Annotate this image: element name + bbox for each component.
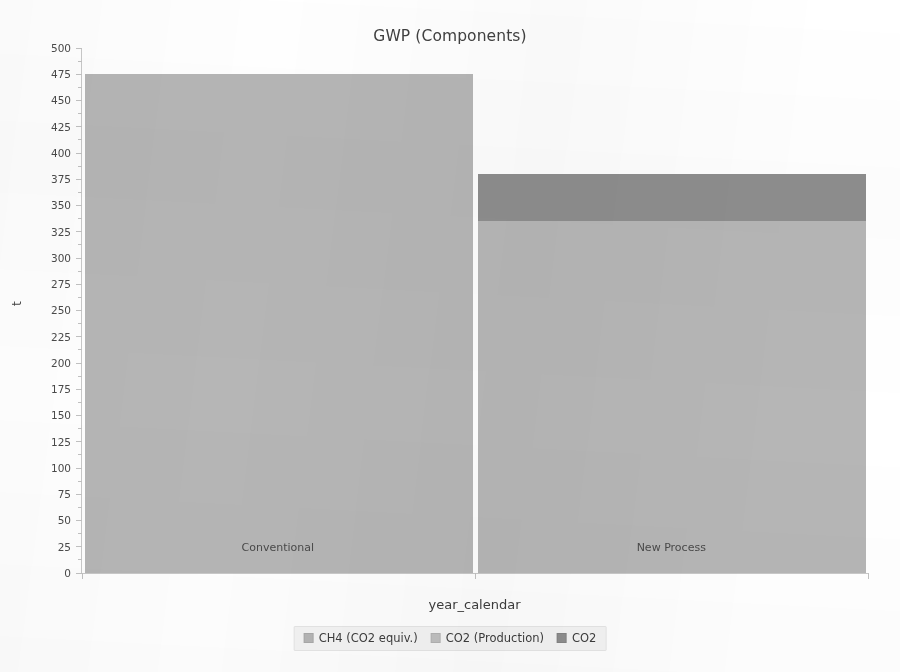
y-axis-tick-label: 150	[51, 410, 71, 421]
y-axis-tick-mark	[76, 153, 82, 154]
y-axis-tick-label: 275	[51, 279, 71, 290]
x-axis-origin-tick-mark	[82, 573, 83, 579]
y-axis-tick-mark	[76, 415, 82, 416]
y-axis-minor-tick	[73, 291, 82, 303]
y-axis-tick: 200	[51, 357, 82, 369]
chart-legend: CH4 (CO2 equiv.)CO2 (Production)CO2	[294, 626, 607, 651]
y-axis-tick: 0	[64, 567, 82, 579]
y-axis-tick-mark	[76, 100, 82, 101]
y-axis-tick-mark	[76, 546, 82, 547]
y-axis-minor-tick	[73, 213, 82, 225]
x-axis-tick-mark	[868, 573, 869, 579]
y-axis-tick: 375	[51, 173, 82, 185]
y-axis-tick: 475	[51, 68, 82, 80]
y-axis-minor-tick-mark	[78, 481, 82, 482]
y-axis-tick-mark	[76, 310, 82, 311]
y-axis-minor-tick-mark	[78, 349, 82, 350]
y-axis-minor-tick	[73, 501, 82, 513]
y-axis-minor-tick-mark	[78, 507, 82, 508]
y-axis-tick: 300	[51, 252, 82, 264]
y-axis-minor-tick-mark	[78, 218, 82, 219]
x-axis-category-label: New Process	[637, 541, 706, 554]
y-axis-tick-label: 75	[58, 489, 71, 500]
y-axis-tick-mark	[76, 284, 82, 285]
y-axis-minor-tick-mark	[78, 61, 82, 62]
y-axis-tick: 25	[58, 541, 82, 553]
legend-label: CO2	[572, 631, 596, 645]
bar-stack[interactable]	[85, 74, 473, 573]
y-axis-tick-label: 475	[51, 69, 71, 80]
y-axis-tick: 50	[58, 515, 82, 527]
y-axis-tick-label: 450	[51, 95, 71, 106]
plot-area: 0255075100125150175200225250275300325350…	[81, 48, 869, 574]
y-axis-minor-tick-mark	[78, 402, 82, 403]
y-axis-tick: 75	[58, 488, 82, 500]
bar-segment[interactable]	[478, 174, 866, 221]
y-axis-tick-label: 425	[51, 122, 71, 133]
y-axis-tick-label: 25	[58, 542, 71, 553]
y-axis-minor-tick-mark	[78, 533, 82, 534]
y-axis-tick: 225	[51, 331, 82, 343]
y-axis-minor-tick	[73, 396, 82, 408]
legend-color-swatch	[431, 633, 441, 643]
y-axis-minor-tick	[73, 108, 82, 120]
y-axis-minor-tick	[73, 55, 82, 67]
y-axis-tick-mark	[76, 126, 82, 127]
y-axis-tick: 100	[51, 462, 82, 474]
y-axis-tick-label: 100	[51, 463, 71, 474]
legend-label: CO2 (Production)	[446, 631, 544, 645]
y-axis-tick-label: 225	[51, 332, 71, 343]
bar-segment[interactable]	[478, 221, 866, 573]
legend-item[interactable]: CO2 (Production)	[431, 631, 544, 645]
y-axis-tick: 275	[51, 278, 82, 290]
gwp-components-chart: GWP (Components) t 025507510012515017520…	[0, 0, 900, 672]
y-axis-minor-tick	[73, 160, 82, 172]
x-axis-category-label: Conventional	[242, 541, 315, 554]
y-axis-tick-label: 125	[51, 437, 71, 448]
y-axis-tick: 175	[51, 383, 82, 395]
y-axis-tick-label: 350	[51, 200, 71, 211]
x-axis-tick-mark	[475, 573, 476, 579]
y-axis-minor-tick	[73, 449, 82, 461]
y-axis-minor-tick-mark	[78, 297, 82, 298]
y-axis-tick: 125	[51, 436, 82, 448]
y-axis-minor-tick	[73, 475, 82, 487]
y-axis-tick-mark	[76, 336, 82, 337]
y-axis-minor-tick	[73, 134, 82, 146]
y-axis-tick-label: 325	[51, 227, 71, 238]
y-axis-tick-label: 375	[51, 174, 71, 185]
legend-item[interactable]: CO2	[557, 631, 596, 645]
y-axis-tick: 250	[51, 305, 82, 317]
y-axis-minor-tick-mark	[78, 323, 82, 324]
y-axis-tick-mark	[76, 441, 82, 442]
y-axis-minor-tick-mark	[78, 113, 82, 114]
y-axis-tick-mark	[76, 179, 82, 180]
y-axis-tick-mark	[76, 231, 82, 232]
y-axis-minor-tick	[73, 318, 82, 330]
y-axis-tick: 150	[51, 410, 82, 422]
y-axis-tick: 500	[51, 42, 82, 54]
y-axis-minor-tick-mark	[78, 271, 82, 272]
y-axis-minor-tick-mark	[78, 192, 82, 193]
y-axis-minor-tick	[73, 81, 82, 93]
legend-label: CH4 (CO2 equiv.)	[319, 631, 418, 645]
y-axis-tick-mark	[76, 468, 82, 469]
y-axis-label: t	[9, 292, 24, 316]
y-axis-tick-mark	[76, 74, 82, 75]
y-axis-minor-tick	[73, 239, 82, 251]
y-axis-tick-label: 200	[51, 358, 71, 369]
chart-title: GWP (Components)	[0, 27, 900, 45]
y-axis-tick-label: 300	[51, 253, 71, 264]
y-axis-tick: 450	[51, 95, 82, 107]
y-axis-minor-tick-mark	[78, 376, 82, 377]
y-axis-tick-mark	[76, 494, 82, 495]
y-axis-tick-label: 50	[58, 515, 71, 526]
y-axis-tick-mark	[76, 258, 82, 259]
bar-stack[interactable]	[478, 174, 866, 573]
y-axis-minor-tick-mark	[78, 244, 82, 245]
legend-item[interactable]: CH4 (CO2 equiv.)	[304, 631, 418, 645]
y-axis-tick-label: 250	[51, 305, 71, 316]
y-axis-minor-tick	[73, 423, 82, 435]
y-axis-minor-tick-mark	[78, 87, 82, 88]
bar-segment[interactable]	[85, 74, 473, 573]
